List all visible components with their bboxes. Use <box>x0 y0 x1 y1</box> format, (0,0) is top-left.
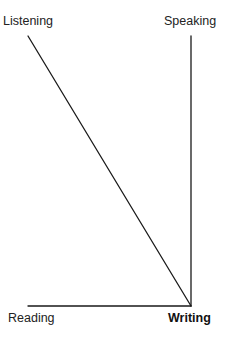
diagram-lines <box>0 0 226 340</box>
label-writing: Writing <box>168 311 211 325</box>
label-listening: Listening <box>3 14 53 28</box>
label-speaking: Speaking <box>164 14 216 28</box>
line-listening-to-writing <box>28 36 191 306</box>
label-reading: Reading <box>8 311 55 325</box>
